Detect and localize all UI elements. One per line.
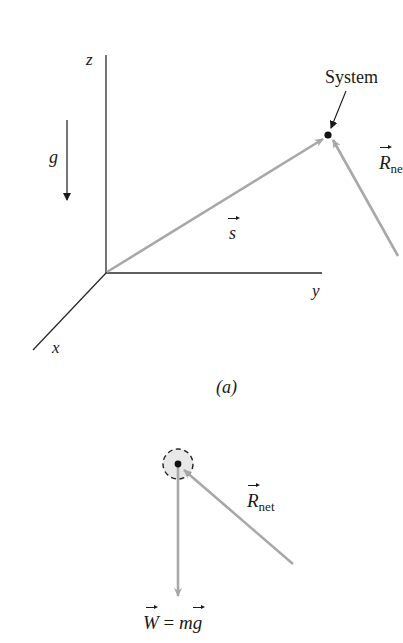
gravity-label: g xyxy=(49,147,58,168)
x-axis xyxy=(33,273,106,350)
system-dot xyxy=(324,131,331,138)
rnet-label-b: Rnet xyxy=(247,490,275,515)
rnet-symbol-a: R xyxy=(379,152,391,174)
system-dot-b xyxy=(175,461,182,468)
displacement-symbol: s xyxy=(229,223,236,244)
mass-symbol: m xyxy=(179,612,193,633)
rnet-vector-b xyxy=(184,470,293,564)
weight-symbol: W xyxy=(143,612,159,634)
displacement-vector xyxy=(107,139,323,272)
system-pointer-arrow xyxy=(331,91,346,128)
equals-sign: = xyxy=(164,612,175,633)
weight-label: W = mg xyxy=(143,612,202,634)
rnet-symbol-b: R xyxy=(247,490,259,512)
y-axis-label: y xyxy=(312,281,320,301)
rnet-subscript-a: ne xyxy=(391,161,403,176)
z-axis-label: z xyxy=(86,50,93,70)
figure-caption-a: (a) xyxy=(216,377,237,398)
rnet-subscript-b: net xyxy=(259,499,275,514)
rnet-label-a: Rne xyxy=(379,152,403,177)
gravity-symbol-b: g xyxy=(193,612,203,634)
system-label: System xyxy=(325,67,378,88)
displacement-label: s xyxy=(229,223,236,244)
coordinate-axes xyxy=(33,55,322,350)
x-axis-label: x xyxy=(52,338,60,358)
